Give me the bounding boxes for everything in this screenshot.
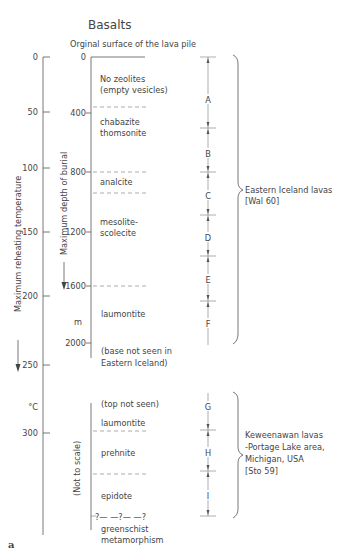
keweenawan-brace [233, 392, 243, 518]
zone-arrows: A B C D E F G H I [200, 57, 216, 516]
diagram-title: Basalts [88, 18, 131, 32]
temp-tick-100: 100 [22, 163, 38, 173]
depth-tick-2000: 2000 [65, 338, 86, 348]
zone-B-label: B [205, 149, 211, 159]
zone-C-label: C [205, 191, 211, 201]
depth-unit: m [74, 317, 82, 327]
keweenawan-label-4: [Sto 59] [245, 466, 278, 476]
keweenawan-label-3: Michigan, USA [245, 454, 304, 464]
eastern-iceland-ref: [Wal 60] [245, 196, 279, 206]
zone-A-label: A [205, 95, 211, 105]
base-note-1: (base not seen in [101, 346, 172, 356]
zone-F-label: F [206, 319, 211, 329]
temp-tick-150: 150 [22, 227, 38, 237]
temp-tick-0: 0 [33, 52, 38, 62]
zeolite-zonation-diagram: Basalts Orginal surface of the lava pile… [0, 0, 343, 554]
zone-D-mineral: mesolite- [100, 217, 138, 227]
keweenawan-label-1: Keweenawan lavas [245, 430, 323, 440]
depth-tick-0: 0 [81, 52, 86, 62]
temp-tick-50: 50 [28, 107, 38, 117]
temp-axis-label: Maximum reheating temperature [13, 176, 23, 312]
depth-tick-1600: 1600 [65, 281, 86, 291]
diagram-subtitle: Orginal surface of the lava pile [70, 39, 196, 49]
zone-H-label: H [205, 448, 211, 458]
zone-D-label: D [205, 233, 211, 243]
zone-H-mineral: prehnite [101, 448, 135, 458]
question-marks: ?— —?— —? [95, 512, 146, 522]
zone-D-mineral-2: scolecite [100, 228, 136, 238]
temp-tick-250: 250 [22, 360, 38, 370]
zone-F-mineral: laumontite [101, 309, 145, 319]
zone-E-label: E [205, 275, 210, 285]
keweenawan-label-2: -Portage Lake area, [245, 442, 325, 452]
zone-A-mineral: No zeolites [100, 74, 145, 84]
zone-C-mineral: analcite [100, 177, 133, 187]
zone-B-mineral-2: thomsonite [100, 128, 146, 138]
greenschist-1: greenschist [101, 524, 149, 534]
zone-I-mineral: epidote [101, 491, 132, 501]
depth-tick-400: 400 [70, 108, 86, 118]
temp-tick-200: 200 [22, 291, 38, 301]
arrow-head-icon [16, 364, 21, 372]
depth-tick-800: 800 [70, 167, 86, 177]
greenschist-2: metamorphism [101, 535, 164, 545]
zone-G-mineral: laumontite [101, 418, 145, 428]
zone-I-label: I [207, 491, 209, 501]
temp-tick-300: 300 [22, 428, 38, 438]
temp-unit: °C [28, 402, 38, 412]
not-to-scale-label: (Not to scale) [72, 441, 82, 496]
zone-G-label: G [205, 402, 211, 412]
zone-A-mineral-2: (empty vesicles) [100, 85, 168, 95]
zone-B-mineral: chabazite [100, 117, 140, 127]
depth-axis-label: Maximum depth of burial [59, 152, 69, 255]
panel-label: a [8, 539, 15, 550]
base-note-2: Eastern Iceland) [101, 358, 168, 368]
eastern-iceland-brace [233, 55, 243, 344]
zone-G-note: (top not seen) [101, 399, 159, 409]
eastern-iceland-label: Eastern Iceland lavas [245, 185, 332, 195]
temperature-axis: 0 50 100 150 200 250 °C 300 Maximum rehe… [13, 52, 50, 535]
